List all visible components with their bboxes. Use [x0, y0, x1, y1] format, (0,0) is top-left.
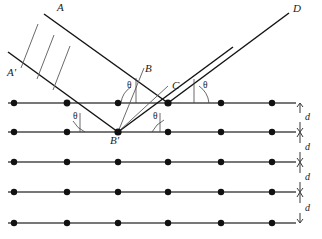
atom	[269, 220, 275, 226]
label-theta-upper-left: θ	[127, 81, 132, 91]
label-theta-lower-left: θ	[73, 112, 78, 122]
label-point-b-prime: B'	[110, 135, 119, 146]
atom	[218, 129, 224, 135]
atom	[64, 100, 71, 107]
label-point-d: D	[293, 3, 301, 14]
diffracted-ray-upper	[168, 13, 289, 103]
label-theta-upper-right: θ	[203, 81, 208, 91]
construction-line-b-prime-to-c	[118, 86, 168, 132]
atom	[11, 189, 17, 195]
angle-arc-lower-right	[152, 120, 164, 132]
atom	[269, 189, 275, 195]
atom	[64, 129, 70, 135]
label-spacing-2: d	[305, 142, 310, 152]
incident-ray-upper	[44, 14, 168, 103]
atom	[115, 100, 121, 106]
wavefront-line-2	[37, 35, 54, 79]
label-spacing-1: d	[305, 112, 310, 122]
label-point-a-prime: A'	[7, 67, 16, 78]
atom	[269, 159, 275, 165]
atom	[165, 189, 171, 195]
bragg-diffraction-figure: A A' B C B' D θ θ θ θ d d d d	[0, 0, 322, 239]
incident-beam	[8, 14, 168, 132]
atom	[115, 220, 121, 226]
label-point-b: B	[145, 63, 152, 74]
label-point-a: A	[57, 2, 64, 13]
wavefront-line-3	[53, 46, 70, 90]
diffracted-beam	[118, 13, 289, 132]
spacing-indicators	[297, 103, 303, 223]
atom	[11, 159, 17, 165]
atom	[269, 129, 275, 135]
atom	[165, 159, 171, 165]
wavefront-line-1	[21, 24, 38, 68]
atom	[218, 159, 224, 165]
lattice-planes	[8, 103, 296, 223]
label-spacing-4: d	[305, 203, 310, 213]
atom	[64, 189, 70, 195]
atom	[11, 100, 17, 106]
atom	[115, 189, 121, 195]
atom	[165, 129, 171, 135]
angle-arcs	[73, 78, 209, 132]
lattice-atoms	[11, 99, 275, 226]
label-point-c: C	[172, 80, 179, 91]
atom	[11, 220, 17, 226]
atom	[64, 220, 70, 226]
atom	[218, 100, 224, 106]
atom	[218, 189, 224, 195]
atom	[269, 100, 275, 106]
atom	[115, 159, 121, 165]
atom	[165, 220, 171, 226]
atom-c	[164, 99, 171, 106]
atom	[11, 129, 17, 135]
label-spacing-3: d	[305, 172, 310, 182]
angle-arc-lower-left	[73, 121, 85, 132]
atom	[64, 159, 70, 165]
label-theta-lower-right: θ	[153, 112, 158, 122]
diagram-canvas	[0, 0, 322, 239]
atom	[218, 220, 224, 226]
